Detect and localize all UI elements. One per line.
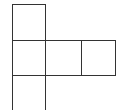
net-square-bottom xyxy=(12,75,46,110)
net-square-top xyxy=(12,4,46,41)
net-square-middle-center xyxy=(45,40,82,76)
net-square-middle-left xyxy=(12,40,46,76)
cube-net-diagram xyxy=(0,0,126,110)
net-square-middle-right xyxy=(81,40,116,76)
